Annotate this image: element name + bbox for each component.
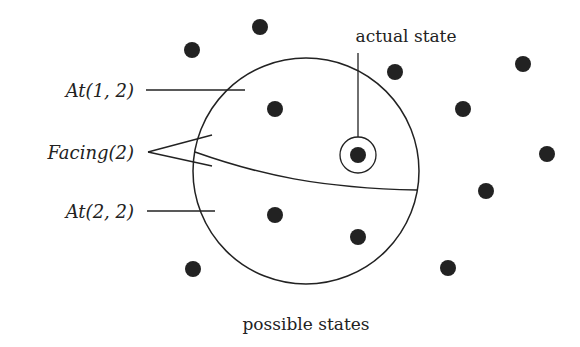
at-1-2-label: At(1, 2) [64,80,134,101]
region-divider-curve [195,152,417,190]
state-dot [440,260,456,276]
actual-state-dot [350,147,366,163]
possible-state-dots [184,19,555,277]
state-dot [478,183,494,199]
state-dot [185,261,201,277]
state-dot [455,101,471,117]
state-dot [387,64,403,80]
state-dot [539,146,555,162]
actual-state-label: actual state [356,26,457,46]
state-dot [515,56,531,72]
state-dot [184,42,200,58]
possible-states-label: possible states [242,314,369,334]
state-space-diagram: actual state At(1, 2) Facing(2) At(2, 2)… [0,0,580,347]
belief-region-circle [193,58,419,284]
facing-2-leader-upper [148,135,212,152]
state-dot [267,207,283,223]
state-dot [350,229,366,245]
state-dot [252,19,268,35]
facing-2-label: Facing(2) [47,142,134,163]
state-dot [267,101,283,117]
at-2-2-label: At(2, 2) [64,201,134,222]
